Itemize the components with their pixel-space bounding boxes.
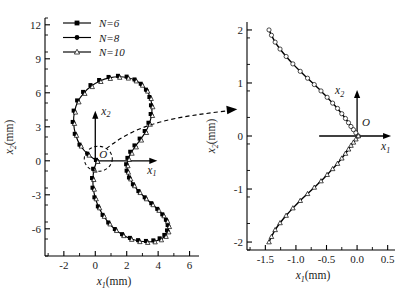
right-panel-y-axis-label: x2(mm) <box>205 119 220 155</box>
right-panel-inner-y-axis-label: x2 <box>334 84 344 99</box>
right-panel-y-tick-label: -2 <box>234 236 243 248</box>
right-panel-x-tick-label: 0.0 <box>350 253 364 265</box>
right-panel-y-tick-label: -1 <box>234 183 243 195</box>
right-panel-data-marker <box>278 47 282 51</box>
left-panel-curve-group <box>71 74 172 245</box>
left-panel-series-markers <box>72 75 171 244</box>
left-panel-y-axis-label: x2(mm) <box>3 120 18 156</box>
right-panel-series-markers <box>267 134 361 244</box>
left-panel-origin-label: O <box>99 148 107 160</box>
right-panel-x-tick-label: 0.5 <box>381 253 395 265</box>
right-panel-data-marker <box>305 76 309 80</box>
right-panel-data-marker <box>346 121 350 125</box>
left-panel-inner-y-axis-label: x2 <box>100 105 110 120</box>
left-panel: 129630-3-6-20246x1(mm)x2(mm)x2x1ON=6N=8N… <box>3 17 237 290</box>
right-panel-data-marker <box>267 240 272 244</box>
figure-svg: 129630-3-6-20246x1(mm)x2(mm)x2x1ON=6N=8N… <box>0 0 407 301</box>
right-panel-series-markers <box>267 28 360 138</box>
zoom-callout-arrowhead <box>226 106 237 115</box>
left-panel-y-tick-label: -6 <box>32 223 42 235</box>
right-panel-y-tick-label: 2 <box>238 24 244 36</box>
right-panel-data-marker <box>267 28 271 32</box>
legend: N=6N=8N=10 <box>63 17 125 58</box>
right-panel-data-marker <box>269 33 273 37</box>
left-panel-y-tick-label: 3 <box>36 121 42 133</box>
left-panel-series-markers <box>71 74 170 243</box>
left-panel-y-tick-label: -3 <box>32 189 42 201</box>
right-panel-data-marker <box>284 54 288 58</box>
right-panel-origin-label: O <box>362 116 370 128</box>
left-panel-x-tick-label: 0 <box>93 259 99 271</box>
left-panel-y-tick-label: 9 <box>36 53 42 65</box>
right-panel-inner-y-arrowhead <box>354 90 360 98</box>
legend-label: N=10 <box>98 46 125 58</box>
left-panel-x-tick-label: -2 <box>59 259 68 271</box>
left-panel-x-axis-label: x1(mm) <box>96 275 132 290</box>
legend-marker <box>75 21 80 26</box>
right-panel-data-marker <box>291 62 295 66</box>
legend-marker <box>75 35 80 40</box>
right-panel-data-marker <box>340 112 344 116</box>
right-panel-data-marker <box>335 106 339 110</box>
right-panel-x-tick-label: -1.5 <box>257 253 275 265</box>
left-panel-x-tick-label: 6 <box>187 259 193 271</box>
right-panel-x-tick-label: -0.5 <box>318 253 336 265</box>
right-panel-inner-x-axis-label: x1 <box>380 140 390 155</box>
right-panel-data-marker <box>325 95 329 99</box>
left-panel-x-tick-label: 4 <box>155 259 161 271</box>
right-panel-data-marker <box>312 82 316 86</box>
left-panel-y-tick-label: 0 <box>36 155 42 167</box>
right-panel-x-tick-label: -1.0 <box>287 253 305 265</box>
right-panel-data-marker <box>331 101 335 105</box>
right-panel-inner-x-arrowhead <box>383 133 391 139</box>
right-panel-data-marker <box>343 116 347 120</box>
left-panel-inner-axes: x2x1O <box>92 105 157 179</box>
right-panel-y-tick-label: 0 <box>238 130 244 142</box>
zoom-callout-ellipse <box>84 146 112 171</box>
left-panel-x-tick-label: 2 <box>124 259 130 271</box>
left-panel-y-tick-label: 6 <box>36 87 42 99</box>
right-panel-data-marker <box>298 69 302 73</box>
right-panel-data-marker <box>319 89 323 93</box>
figure-container: 129630-3-6-20246x1(mm)x2(mm)x2x1ON=6N=8N… <box>0 0 407 301</box>
left-panel-inner-x-axis-label: x1 <box>146 164 156 179</box>
left-panel-y-tick-label: 12 <box>30 19 41 31</box>
left-panel-inner-y-arrowhead <box>92 111 98 119</box>
right-panel-x-axis-label: x1(mm) <box>295 269 331 284</box>
right-panel: 210-1-2-1.5-1.0-0.50.00.5x1(mm)x2(mm)x2x… <box>205 22 395 284</box>
legend-item: N=10 <box>63 46 125 58</box>
left-panel-orbit-curve <box>74 77 169 242</box>
right-panel-data-marker <box>273 40 277 44</box>
right-panel-y-tick-label: 1 <box>238 77 244 89</box>
legend-item: N=8 <box>63 32 120 44</box>
legend-item: N=6 <box>63 17 120 29</box>
legend-label: N=8 <box>98 32 120 44</box>
left-panel-series-markers <box>72 75 171 244</box>
legend-label: N=6 <box>98 17 120 29</box>
